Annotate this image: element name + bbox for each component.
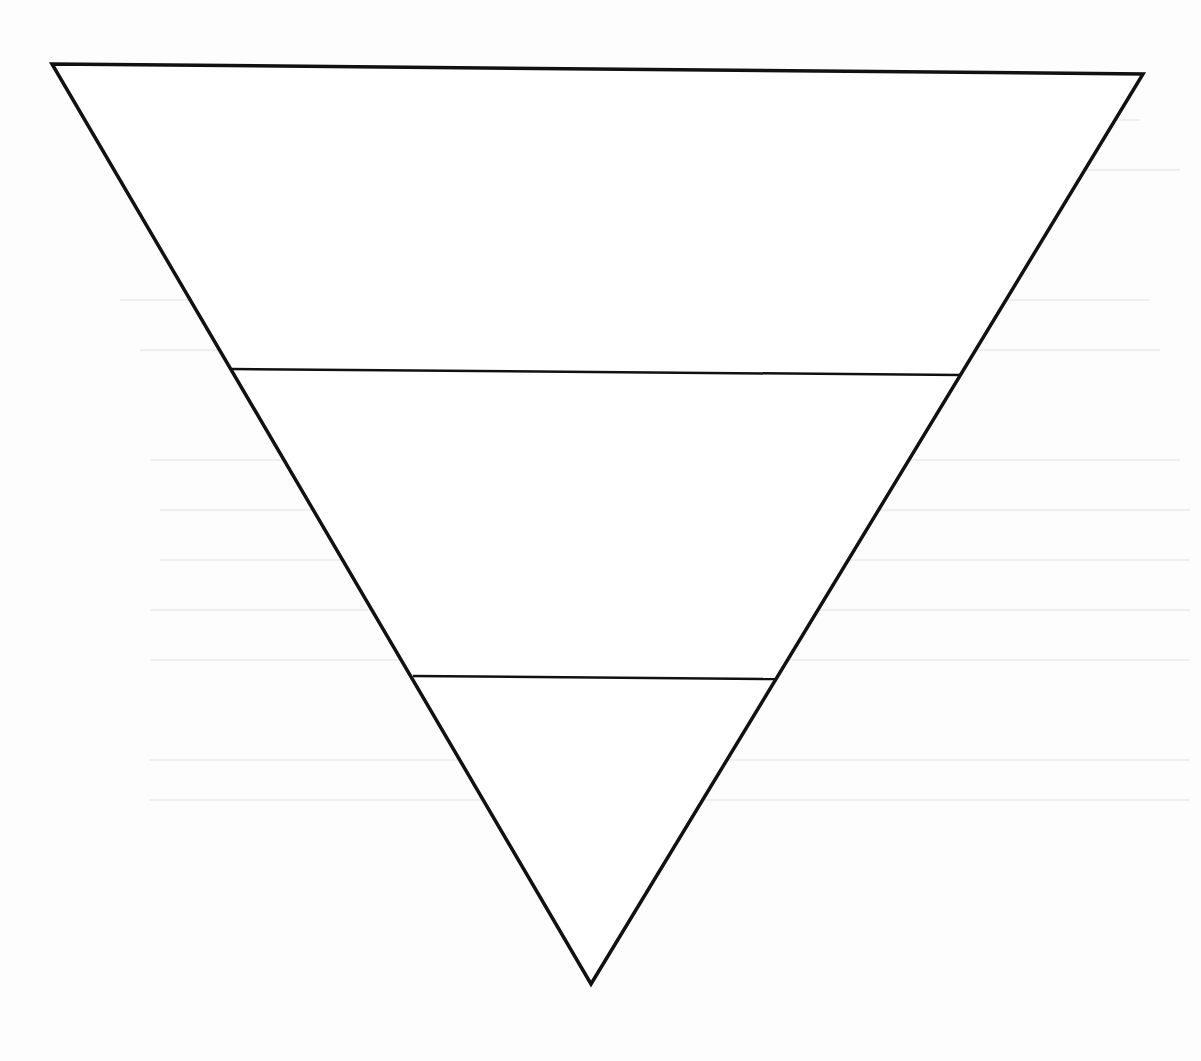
triangle-outline [52,64,1143,984]
scanned-page [0,0,1201,1061]
inverted-triangle-diagram [0,0,1201,1061]
